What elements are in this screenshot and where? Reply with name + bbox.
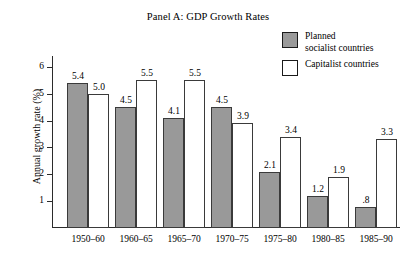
bar-capitalist [280,137,301,228]
bar-capitalist [328,177,349,228]
bar-value-label: 3.9 [226,111,260,121]
legend-item-planned-socialist: Planned socialist countries [282,31,373,54]
y-tick-3 [47,147,53,148]
bar-capitalist [232,123,253,228]
y-tick-label-3: 3 [28,142,44,152]
bar-value-label: 1.9 [322,165,356,175]
bar-value-label: 5.5 [130,68,164,78]
bar-planned [67,83,88,228]
y-tick-5 [47,94,53,95]
y-tick-6 [47,67,53,68]
plot-area: 123456 5.45.04.55.54.15.54.53.92.13.41.2… [52,56,400,228]
bar-value-label: 3.4 [274,125,308,135]
y-tick-label-1: 1 [28,196,44,206]
bar-planned [259,172,280,228]
y-tick-1 [47,201,53,202]
bar-planned [307,196,328,228]
chart-figure: Panel A: GDP Growth Rates Planned social… [0,0,416,264]
bar-capitalist [184,80,205,228]
bar-value-label: 5.4 [61,71,95,81]
y-tick-label-6: 6 [28,62,44,72]
x-axis-label: 1985–90 [343,234,409,244]
y-tick-label-4: 4 [28,116,44,126]
y-tick-4 [47,121,53,122]
y-tick-label-2: 2 [28,169,44,179]
legend-label-planned-socialist: Planned socialist countries [305,31,373,54]
bar-capitalist [136,80,157,228]
y-tick-2 [47,174,53,175]
bar-value-label: 4.5 [205,95,239,105]
bar-planned [355,207,376,229]
y-axis-title: Annual growth rate (%) [31,62,42,212]
bar-value-label: 5.0 [82,82,116,92]
y-tick-label-5: 5 [28,89,44,99]
bar-planned [115,107,136,228]
y-axis-line [52,56,53,228]
bar-value-label: 5.5 [178,68,212,78]
bar-planned [163,118,184,228]
chart-title: Panel A: GDP Growth Rates [0,11,416,22]
bar-value-label: 3.3 [370,127,404,137]
bar-capitalist [88,94,109,228]
bar-planned [211,107,232,228]
bar-capitalist [376,139,397,228]
filled-gray-swatch [282,32,298,48]
